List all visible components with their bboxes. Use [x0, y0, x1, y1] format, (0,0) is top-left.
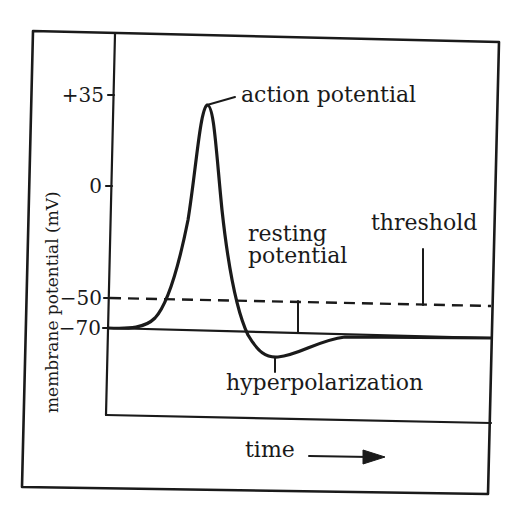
resting-potential-label-line2: potential [248, 243, 347, 268]
y-tick-label-35: +35 [62, 83, 104, 107]
y-tick-label-minus50: −50 [60, 286, 102, 310]
right-arrow-icon [309, 450, 385, 464]
y-axis-title: membrane potential (mV) [42, 191, 62, 413]
action-potential-diagram: +35 0 −50 −70 membrane potential (mV) ac… [0, 0, 522, 527]
action-potential-leader [207, 97, 235, 105]
y-tick-label-minus70: −70 [59, 316, 101, 340]
action-potential-label: action potential [241, 82, 416, 107]
plot-bottom-line [106, 415, 491, 423]
hyperpolarization-label: hyperpolarization [226, 370, 423, 395]
y-axis [106, 34, 115, 415]
threshold-label: threshold [371, 210, 477, 235]
y-tick-label-0: 0 [89, 174, 102, 198]
x-axis-title: time [245, 437, 295, 462]
